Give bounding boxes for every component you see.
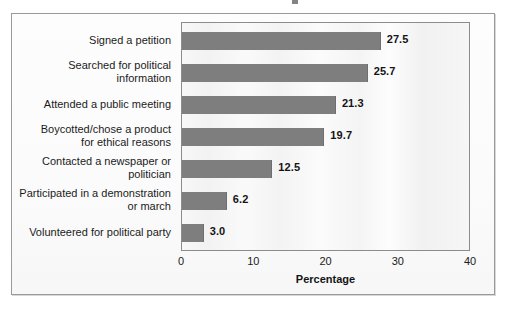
x-tick-label: 20 xyxy=(319,255,331,267)
figure-root: Signed a petitionSearched for political … xyxy=(0,0,507,310)
bar-row: 6.2 xyxy=(182,185,469,217)
bar-value-label: 3.0 xyxy=(210,225,226,237)
bar-value-label: 6.2 xyxy=(233,193,249,205)
x-axis-title: Percentage xyxy=(181,273,470,285)
bar xyxy=(182,160,272,178)
category-label: Volunteered for political party xyxy=(0,226,171,239)
category-label: Boycotted/chose a product for ethical re… xyxy=(0,123,171,149)
bar-row: 12.5 xyxy=(182,153,469,185)
bar xyxy=(182,64,368,82)
x-axis-tick-labels: 010203040 xyxy=(181,255,470,271)
bar-chart: Signed a petitionSearched for political … xyxy=(0,0,507,310)
bar xyxy=(182,192,227,210)
x-tick-label: 30 xyxy=(392,255,404,267)
bar xyxy=(182,32,381,50)
bar-row: 21.3 xyxy=(182,89,469,121)
bar-row: 25.7 xyxy=(182,57,469,89)
category-axis-labels: Signed a petitionSearched for political … xyxy=(0,22,175,251)
plot-area: 27.525.721.319.712.56.23.0 xyxy=(181,22,470,251)
x-tick-label: 0 xyxy=(178,255,184,267)
bar-value-label: 25.7 xyxy=(374,65,396,77)
bar-value-label: 21.3 xyxy=(342,97,364,109)
category-label: Signed a petition xyxy=(0,34,171,47)
category-label: Contacted a newspaper or politician xyxy=(0,155,171,181)
x-tick-label: 10 xyxy=(247,255,259,267)
bar-value-label: 27.5 xyxy=(387,33,409,45)
bar xyxy=(182,128,324,146)
bar-row: 19.7 xyxy=(182,121,469,153)
category-label: Searched for political information xyxy=(0,59,171,85)
bar-row: 3.0 xyxy=(182,217,469,249)
bar xyxy=(182,224,204,242)
bar-value-label: 19.7 xyxy=(330,129,352,141)
bar xyxy=(182,96,336,114)
category-label: Participated in a demonstration or march xyxy=(0,187,171,213)
bar-value-label: 12.5 xyxy=(278,161,300,173)
bar-row: 27.5 xyxy=(182,25,469,57)
x-tick-label: 40 xyxy=(464,255,476,267)
category-label: Attended a public meeting xyxy=(0,98,171,111)
